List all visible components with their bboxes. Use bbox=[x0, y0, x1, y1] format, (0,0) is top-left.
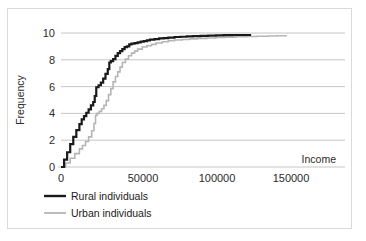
y-tick-label-0: 0 bbox=[49, 161, 55, 173]
y-tick-label-6: 6 bbox=[49, 81, 55, 93]
cumulative-frequency-chart: 10 8 6 4 2 0 0 50000 100000 150000 Frequ… bbox=[0, 0, 366, 241]
series-group bbox=[61, 35, 286, 167]
x-tick-label-0: 0 bbox=[58, 172, 64, 184]
y-axis-tick-labels: 10 8 6 4 2 0 bbox=[43, 27, 55, 173]
legend-label-rural: Rural individuals bbox=[71, 190, 148, 202]
y-axis-title: Frequency bbox=[14, 74, 26, 124]
legend-item-urban: Urban individuals bbox=[44, 207, 152, 219]
x-tick-label-150000: 150000 bbox=[273, 172, 310, 184]
x-tick-label-50000: 50000 bbox=[128, 172, 159, 184]
gridlines bbox=[61, 33, 345, 140]
chart-legend: Rural individuals Urban individuals bbox=[44, 190, 152, 219]
x-axis-tick-labels: 0 50000 100000 150000 bbox=[58, 172, 309, 184]
y-tick-label-4: 4 bbox=[49, 107, 55, 119]
x-axis-title: Income bbox=[302, 153, 337, 165]
y-tick-label-10: 10 bbox=[43, 27, 55, 39]
series-line-rural-individuals bbox=[61, 35, 251, 167]
y-tick-label-8: 8 bbox=[49, 54, 55, 66]
x-tick-label-100000: 100000 bbox=[199, 172, 236, 184]
y-tick-label-2: 2 bbox=[49, 134, 55, 146]
legend-item-rural: Rural individuals bbox=[44, 190, 148, 202]
legend-label-urban: Urban individuals bbox=[71, 207, 152, 219]
chart-container: 10 8 6 4 2 0 0 50000 100000 150000 Frequ… bbox=[0, 0, 366, 241]
